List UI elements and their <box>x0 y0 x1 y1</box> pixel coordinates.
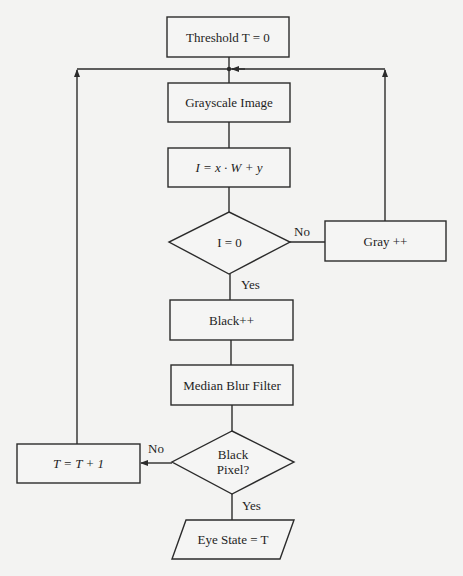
label-index: I = x · W + y <box>168 160 290 175</box>
edge-label-is-zero-no: No <box>294 224 310 240</box>
flowchart-canvas: Threshold T = 0 Grayscale Image I = x · … <box>0 0 463 576</box>
label-black-pixel-line2: Pixel? <box>172 462 294 477</box>
label-eye-state: Eye State = T <box>172 532 294 547</box>
edge-label-black-pixel-no: No <box>148 441 164 457</box>
label-grayscale: Grayscale Image <box>168 95 290 110</box>
junction-dot <box>227 67 231 71</box>
label-is-zero: I = 0 <box>169 235 290 250</box>
label-black-pixel-line1: Black <box>172 447 294 462</box>
label-threshold: Threshold T = 0 <box>167 30 289 45</box>
edge-label-is-zero-yes: Yes <box>241 277 260 293</box>
label-black-inc: Black++ <box>170 313 293 328</box>
flowchart-graphics <box>0 0 463 576</box>
label-gray-inc: Gray ++ <box>325 234 446 249</box>
label-t-inc: T = T + 1 <box>17 456 140 471</box>
edge-label-black-pixel-yes: Yes <box>242 498 261 514</box>
label-median: Median Blur Filter <box>171 378 293 393</box>
